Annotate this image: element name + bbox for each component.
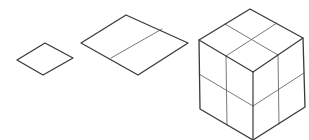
small-rhombus-outline bbox=[17, 43, 73, 75]
small-rhombus bbox=[17, 43, 73, 75]
grid-line bbox=[226, 23, 277, 56]
medium-rhombus bbox=[81, 15, 188, 75]
grid-line bbox=[111, 29, 162, 58]
cube-outline bbox=[199, 9, 305, 140]
diagram-canvas bbox=[0, 0, 309, 140]
isometric-diagram bbox=[0, 0, 309, 140]
cube-2x2x2 bbox=[199, 9, 305, 140]
